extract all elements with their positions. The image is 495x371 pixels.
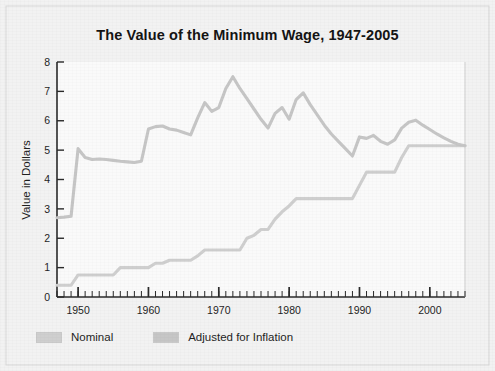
plot-panel-background [57,62,465,297]
x-axis-tick-labels: 195019601970198019902000 [66,304,441,316]
y-tick-label: 6 [44,114,50,126]
x-tick-label: 1980 [277,304,301,316]
y-tick-label: 0 [44,291,50,303]
legend-swatch-nominal [36,332,62,343]
y-axis-tick-labels: 012345678 [44,56,50,303]
legend-label-adjusted: Adjusted for Inflation [188,331,293,343]
x-tick-label: 1970 [207,304,231,316]
y-tick-label: 2 [44,232,50,244]
y-tick-label: 7 [44,85,50,97]
legend-item-adjusted: Adjusted for Inflation [153,331,293,343]
y-axis-title: Value in Dollars [20,140,32,220]
chart-figure: The Value of the Minimum Wage, 1947-2005… [0,0,495,371]
legend-item-nominal: Nominal [36,331,113,343]
x-tick-label: 1950 [66,304,90,316]
y-tick-label: 3 [44,203,50,215]
legend-swatch-adjusted [153,332,179,343]
chart-legend: Nominal Adjusted for Inflation [36,331,293,343]
y-tick-label: 5 [44,144,50,156]
y-tick-label: 1 [44,261,50,273]
legend-label-nominal: Nominal [71,331,113,343]
chart-plot-area: 012345678 195019601970198019902000 Value… [0,0,495,371]
x-tick-label: 1960 [137,304,161,316]
y-tick-label: 8 [44,56,50,68]
y-tick-label: 4 [44,173,50,185]
x-tick-label: 2000 [418,304,442,316]
x-tick-label: 1990 [348,304,372,316]
